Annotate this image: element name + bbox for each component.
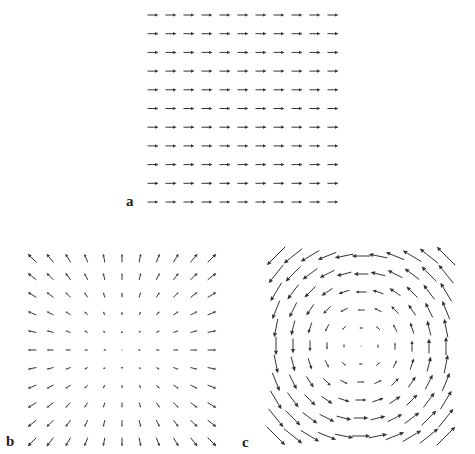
vector-arrow bbox=[328, 200, 339, 203]
vector-arrow bbox=[173, 273, 178, 280]
vector-arrow bbox=[139, 273, 141, 280]
vector-arrow bbox=[173, 403, 178, 408]
vector-arrow bbox=[65, 292, 70, 297]
vector-arrow bbox=[292, 51, 303, 54]
vector-arrow bbox=[121, 367, 123, 369]
vector-arrow bbox=[310, 182, 321, 185]
vector-arrow bbox=[301, 250, 320, 261]
vector-arrow bbox=[323, 306, 330, 313]
vector-arrow bbox=[422, 411, 437, 426]
vector-arrow bbox=[408, 376, 415, 387]
vector-arrow bbox=[202, 70, 213, 73]
vector-arrow bbox=[202, 126, 213, 129]
vector-arrow bbox=[371, 271, 386, 276]
vector-arrow bbox=[121, 385, 123, 389]
vector-arrow bbox=[220, 88, 231, 91]
vector-arrow bbox=[220, 144, 231, 147]
vector-arrow bbox=[84, 273, 88, 280]
vector-arrow bbox=[191, 292, 198, 297]
vector-arrow bbox=[256, 70, 267, 73]
vector-arrow bbox=[103, 349, 105, 351]
vector-arrow bbox=[256, 126, 267, 129]
vector-arrow bbox=[328, 182, 339, 185]
vector-arrow bbox=[156, 367, 160, 369]
vector-field-figure bbox=[0, 0, 475, 454]
vector-arrow bbox=[238, 70, 249, 73]
panel-b-label: b bbox=[6, 434, 14, 449]
vector-arrow bbox=[292, 126, 303, 129]
vector-arrow bbox=[65, 403, 70, 408]
vector-arrow bbox=[439, 409, 454, 428]
vector-arrow bbox=[328, 88, 339, 91]
vector-arrow bbox=[148, 182, 159, 185]
vector-arrow bbox=[442, 373, 450, 392]
vector-arrow bbox=[274, 107, 285, 110]
vector-arrow bbox=[256, 182, 267, 185]
vector-arrow bbox=[291, 357, 296, 372]
vector-arrow bbox=[256, 200, 267, 203]
vector-arrow bbox=[166, 144, 177, 147]
vector-arrow bbox=[156, 420, 160, 427]
vector-arrow bbox=[256, 144, 267, 147]
vector-arrow bbox=[272, 301, 280, 320]
vector-arrow bbox=[173, 368, 178, 370]
vector-arrow bbox=[310, 13, 321, 16]
vector-arrow bbox=[325, 360, 329, 367]
vector-arrow bbox=[220, 107, 231, 110]
vector-arrow bbox=[28, 273, 37, 280]
vector-arrow bbox=[408, 304, 415, 315]
vector-arrow bbox=[256, 88, 267, 91]
vector-arrow bbox=[369, 433, 388, 438]
vector-arrow bbox=[405, 268, 420, 279]
vector-arrow bbox=[320, 414, 335, 421]
vector-arrow bbox=[372, 398, 383, 402]
vector-arrow bbox=[184, 13, 195, 16]
vector-arrow bbox=[425, 375, 432, 390]
vector-arrow bbox=[166, 107, 177, 110]
vector-arrow bbox=[328, 126, 339, 129]
vector-arrow bbox=[166, 32, 177, 35]
vector-arrow bbox=[28, 292, 37, 297]
vector-arrow bbox=[272, 373, 280, 392]
vector-arrow bbox=[220, 51, 231, 54]
panel-c-label: c bbox=[242, 435, 249, 450]
vector-arrow bbox=[173, 349, 178, 351]
vector-arrow bbox=[28, 367, 37, 370]
vector-arrow bbox=[270, 391, 281, 410]
vector-arrow bbox=[306, 376, 313, 387]
vector-arrow bbox=[139, 420, 141, 427]
vector-arrow bbox=[393, 324, 397, 331]
vector-arrow bbox=[208, 367, 217, 370]
vector-arrow bbox=[274, 126, 285, 129]
vector-arrow bbox=[374, 308, 381, 312]
vector-arrow bbox=[287, 285, 298, 300]
vector-arrow bbox=[184, 126, 195, 129]
vector-arrow bbox=[148, 70, 159, 73]
vector-arrow bbox=[274, 144, 285, 147]
vector-arrow bbox=[274, 51, 285, 54]
vector-arrow bbox=[208, 330, 217, 333]
vector-arrow bbox=[303, 268, 318, 279]
vector-arrow bbox=[328, 51, 339, 54]
vector-arrow bbox=[440, 391, 451, 410]
vector-arrow bbox=[256, 51, 267, 54]
vector-arrow bbox=[425, 303, 432, 318]
vector-arrow bbox=[328, 32, 339, 35]
vector-arrow bbox=[121, 438, 124, 447]
vector-arrow bbox=[303, 412, 318, 423]
vector-arrow bbox=[220, 32, 231, 35]
vector-arrow bbox=[410, 358, 414, 369]
vector-arrow bbox=[310, 51, 321, 54]
vector-arrow bbox=[355, 290, 366, 293]
vector-arrow bbox=[156, 311, 160, 315]
vector-arrow bbox=[208, 273, 217, 280]
vector-arrow bbox=[328, 163, 339, 166]
vector-arrow bbox=[103, 311, 105, 315]
vector-arrow bbox=[139, 292, 141, 297]
vector-arrow bbox=[292, 200, 303, 203]
vector-arrow bbox=[318, 432, 337, 440]
vector-arrow bbox=[65, 330, 70, 332]
vector-arrow bbox=[328, 144, 339, 147]
vector-arrow bbox=[274, 32, 285, 35]
vector-arrow bbox=[420, 249, 439, 264]
